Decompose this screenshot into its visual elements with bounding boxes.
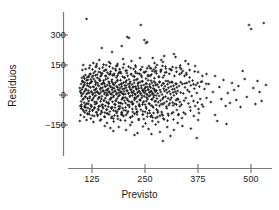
data-point	[241, 70, 244, 73]
data-point	[131, 121, 134, 124]
data-point	[169, 93, 172, 96]
data-point	[106, 108, 109, 111]
data-point	[237, 85, 240, 88]
data-point	[192, 100, 195, 103]
data-point	[162, 87, 165, 90]
data-point	[148, 102, 151, 105]
data-point	[167, 80, 170, 83]
data-point	[248, 24, 251, 27]
data-point	[214, 75, 217, 78]
data-point	[222, 79, 225, 82]
data-point	[84, 68, 87, 71]
data-point	[88, 67, 91, 70]
data-point	[101, 66, 104, 69]
data-point	[205, 73, 208, 76]
data-point	[134, 66, 137, 69]
data-point	[82, 64, 85, 67]
data-point	[104, 104, 107, 107]
data-point	[111, 51, 114, 54]
data-point	[134, 105, 137, 108]
data-point	[190, 95, 193, 98]
data-point	[243, 78, 246, 81]
data-point	[195, 92, 198, 95]
data-point	[168, 90, 171, 93]
data-point	[195, 137, 198, 140]
x-axis-tick-label: 375	[190, 174, 206, 184]
data-point	[105, 64, 108, 67]
data-point	[124, 106, 127, 109]
data-point	[150, 133, 153, 136]
data-point	[161, 93, 164, 96]
y-axis-title: Resíduos	[7, 64, 18, 106]
data-point	[114, 68, 117, 71]
data-point	[142, 118, 145, 121]
data-point	[198, 85, 201, 88]
data-point	[154, 123, 157, 126]
data-point	[106, 71, 109, 74]
data-point	[167, 112, 170, 115]
data-point	[155, 104, 158, 107]
data-point	[140, 76, 143, 79]
data-point	[78, 87, 81, 90]
data-point	[146, 115, 149, 118]
data-point	[194, 105, 197, 108]
data-point	[124, 119, 127, 122]
data-point	[112, 67, 115, 70]
data-point	[205, 97, 208, 100]
data-point	[144, 110, 147, 113]
data-point	[184, 86, 187, 89]
data-point	[198, 112, 201, 115]
data-point	[123, 90, 126, 93]
data-point	[87, 100, 90, 103]
data-point	[164, 85, 167, 88]
data-point	[133, 112, 136, 115]
data-point	[80, 83, 83, 86]
data-point	[176, 109, 179, 112]
data-point	[101, 47, 104, 50]
data-point	[119, 79, 122, 82]
data-point	[134, 72, 137, 75]
data-point	[84, 74, 87, 77]
data-point	[125, 129, 128, 132]
data-point	[192, 83, 195, 86]
data-point	[116, 115, 119, 118]
data-point	[183, 99, 186, 102]
data-point	[158, 80, 161, 83]
data-point	[172, 118, 175, 121]
data-point	[159, 99, 162, 102]
data-point	[145, 106, 148, 109]
data-point	[139, 92, 142, 95]
data-point	[157, 86, 160, 89]
data-point	[146, 112, 149, 115]
data-point	[189, 106, 192, 109]
data-point	[126, 89, 129, 92]
data-point	[189, 109, 192, 112]
data-point	[197, 119, 200, 122]
data-point	[258, 91, 261, 94]
data-point	[141, 113, 144, 116]
data-point	[180, 103, 183, 106]
data-point	[191, 79, 194, 82]
data-point	[188, 90, 191, 93]
data-point	[172, 104, 175, 107]
data-point	[131, 108, 134, 111]
data-point	[252, 87, 255, 90]
data-point	[160, 59, 163, 62]
data-point	[233, 89, 236, 92]
data-point	[214, 114, 217, 117]
y-axis-tick-label: 300	[50, 30, 66, 40]
data-point	[102, 63, 105, 66]
data-point	[148, 109, 151, 112]
data-point	[167, 97, 170, 100]
data-point	[120, 45, 123, 48]
data-point	[201, 75, 204, 78]
data-points-group	[78, 18, 267, 143]
data-point	[111, 78, 114, 81]
data-point	[132, 68, 135, 71]
data-point	[103, 116, 106, 119]
data-point	[126, 72, 129, 75]
data-point	[128, 78, 131, 81]
data-point	[172, 84, 175, 87]
data-point	[235, 99, 238, 102]
data-point	[162, 61, 165, 64]
